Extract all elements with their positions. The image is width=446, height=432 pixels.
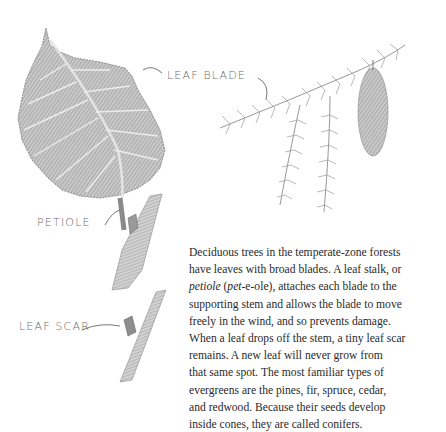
term-petiole: petiole [189,280,221,293]
paragraph-line: and redwood. Because their seeds develop [189,399,444,416]
paragraph-line: inside cones, they are called conifers. [189,416,444,432]
paragraph-line: When a leaf drops off the stem, a tiny l… [189,330,444,347]
paragraph-line: remains. A new leaf will never grow from [189,347,444,364]
broadleaf-illustration [18,28,165,230]
twig-illustration [120,290,166,382]
paragraph-line: have leaves with broad blades. A leaf st… [189,261,444,278]
petiole-arrow [105,210,120,225]
pronunciation-stress: pet [227,280,241,293]
paragraph-line: petiole (pet-e-ole), attaches each blade… [189,278,444,295]
paragraph-line: evergreens are the pines, fir, spruce, c… [189,382,444,399]
label-leaf-blade: LEAF BLADE [167,69,246,82]
paragraph-line: freely in the wind, and so prevents dama… [189,313,444,330]
pine-cone-illustration [358,60,388,156]
label-leaf-scar: LEAF SCAR [19,320,90,333]
paragraph-line: supporting stem and allows the blade to … [189,296,444,313]
description-paragraph: Deciduous trees in the temperate-zone fo… [189,244,444,432]
label-petiole: PETIOLE [37,216,91,229]
paragraph-line: Deciduous trees in the temperate-zone fo… [189,244,444,261]
leaf-blade-left-arrow [143,68,162,73]
leaf-blade-right-arrow [258,78,267,100]
paragraph-line: that same spot. The most familiar types … [189,364,444,381]
